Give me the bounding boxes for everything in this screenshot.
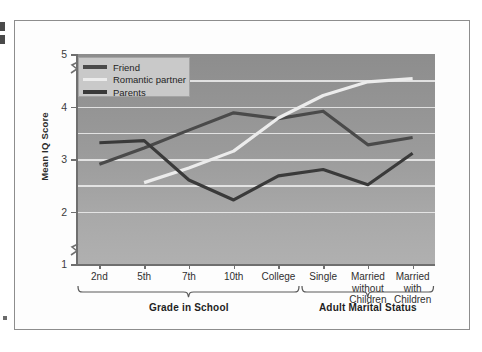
group-bracket-1 (301, 286, 435, 298)
x-tick-0 (99, 264, 101, 269)
y-tick-2 (71, 212, 76, 214)
x-tick-1 (144, 264, 146, 269)
y-axis-title: Mean IQ Score (39, 102, 50, 192)
y-tick-5 (71, 54, 76, 56)
scan-artifact-top (0, 22, 5, 31)
scan-artifact-bottom (3, 316, 7, 320)
y-tick-4 (71, 107, 76, 109)
figure-frame: 12345 Mean IQ Score 2nd5th7th10thCollege… (14, 20, 470, 330)
legend-swatch-icon (83, 65, 107, 69)
legend-swatch-icon (83, 90, 107, 94)
y-tick-label-1: 1 (53, 259, 67, 269)
x-tick-2 (189, 264, 191, 269)
x-tick-6 (368, 264, 370, 269)
legend-label: Romantic partner (113, 74, 186, 85)
chart-legend: FriendRomantic partnerParents (78, 57, 190, 97)
x-tick-7 (413, 264, 415, 269)
legend-label: Parents (113, 87, 146, 98)
x-tick-3 (234, 264, 236, 269)
y-tick-label-3: 3 (53, 154, 67, 164)
group-bracket-0 (77, 286, 300, 298)
series-line-friend (99, 111, 412, 164)
x-tick-5 (323, 264, 325, 269)
legend-label: Friend (113, 62, 140, 73)
y-tick-label-4: 4 (53, 102, 67, 112)
x-axis-line (76, 264, 435, 266)
scan-artifact-upper (0, 35, 5, 44)
y-tick-label-2: 2 (53, 207, 67, 217)
x-tick-4 (278, 264, 280, 269)
legend-item-parents[interactable]: Parents (83, 86, 185, 98)
y-tick-label-5: 5 (53, 49, 67, 59)
y-tick-3 (71, 159, 76, 161)
legend-item-romantic-partner[interactable]: Romantic partner (83, 74, 185, 86)
y-tick-1 (71, 264, 76, 266)
group-label-1: Adult Marital Status (301, 302, 435, 313)
group-label-0: Grade in School (77, 302, 300, 313)
series-line-parents (99, 141, 412, 200)
legend-item-friend[interactable]: Friend (83, 61, 185, 73)
legend-swatch-icon (83, 78, 107, 82)
